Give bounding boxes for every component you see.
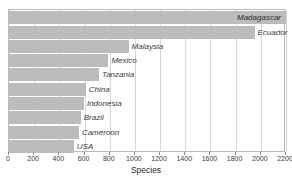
bar[interactable] bbox=[9, 26, 255, 39]
bar-label: Madagascar bbox=[237, 12, 281, 23]
tick-label-1400: 1400 bbox=[176, 155, 192, 162]
tick-label-2200: 2200 bbox=[277, 155, 292, 162]
tick-label-600: 600 bbox=[78, 155, 90, 162]
bar[interactable] bbox=[9, 97, 84, 110]
bar-label: Tanzania bbox=[102, 69, 134, 80]
bar-row[interactable]: Cameroon bbox=[9, 126, 284, 139]
bar-row[interactable]: Ecuador bbox=[9, 26, 284, 39]
bar-row[interactable]: Brazil bbox=[9, 111, 284, 124]
tick-label-1000: 1000 bbox=[126, 155, 142, 162]
bar-row[interactable]: China bbox=[9, 83, 284, 96]
plot-area: MadagascarEcuadorMalaysiaMexicoTanzaniaC… bbox=[8, 9, 285, 152]
bar-label: Ecuador bbox=[258, 27, 288, 38]
bar-row[interactable]: Malaysia bbox=[9, 40, 284, 53]
bar-row[interactable]: Indonesia bbox=[9, 97, 284, 110]
bar[interactable] bbox=[9, 111, 81, 124]
x-axis-title: Species bbox=[0, 165, 292, 175]
tick-label-200: 200 bbox=[27, 155, 39, 162]
tick-label-400: 400 bbox=[53, 155, 65, 162]
tick-label-0: 0 bbox=[6, 155, 10, 162]
x-axis: 0200400600800100012001400160018002000220… bbox=[8, 152, 285, 164]
tick-label-1800: 1800 bbox=[227, 155, 243, 162]
bar-label: Mexico bbox=[111, 55, 136, 66]
bar[interactable] bbox=[9, 83, 86, 96]
chart-title bbox=[0, 0, 292, 3]
bar-label: USA bbox=[77, 141, 93, 152]
bar[interactable] bbox=[9, 40, 129, 53]
tick-label-1600: 1600 bbox=[202, 155, 218, 162]
bar-label: Brazil bbox=[84, 112, 104, 123]
tick-label-800: 800 bbox=[103, 155, 115, 162]
bar-label: China bbox=[89, 84, 110, 95]
bar[interactable] bbox=[9, 68, 99, 81]
bar[interactable] bbox=[9, 126, 79, 139]
bar[interactable] bbox=[9, 54, 108, 67]
bar-label: Cameroon bbox=[82, 127, 119, 138]
bar-chart: MadagascarEcuadorMalaysiaMexicoTanzaniaC… bbox=[0, 0, 292, 179]
bar-row[interactable]: Mexico bbox=[9, 54, 284, 67]
bar-series: MadagascarEcuadorMalaysiaMexicoTanzaniaC… bbox=[9, 10, 284, 151]
tick-label-2000: 2000 bbox=[252, 155, 268, 162]
bar-row[interactable]: Tanzania bbox=[9, 68, 284, 81]
bar-row[interactable]: Madagascar bbox=[9, 11, 284, 24]
tick-label-1200: 1200 bbox=[151, 155, 167, 162]
bar-label: Malaysia bbox=[132, 41, 164, 52]
bar-label: Indonesia bbox=[87, 98, 122, 109]
